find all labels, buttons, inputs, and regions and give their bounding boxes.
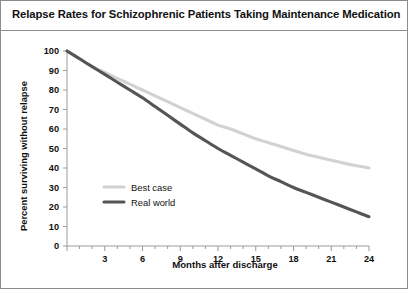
y-axis-ticks: 0102030405060708090100 [44, 46, 67, 251]
chart-figure: Relapse Rates for Schizophrenic Patients… [0, 0, 408, 289]
y-tick-label: 30 [49, 183, 59, 193]
legend: Best case Real world [104, 182, 175, 208]
y-tick-label: 10 [49, 222, 59, 232]
series-line-best-case [67, 51, 369, 168]
plot-area: 0102030405060708090100 3691215182124 Bes… [1, 31, 408, 289]
y-tick-label: 100 [44, 46, 59, 56]
y-tick-label: 40 [49, 163, 59, 173]
y-tick-label: 70 [49, 105, 59, 115]
x-axis-title: Months after discharge [1, 259, 408, 270]
legend-label-best-case: Best case [131, 182, 172, 193]
legend-label-real-world: Real world [131, 197, 175, 208]
y-tick-label: 80 [49, 85, 59, 95]
title-bar: Relapse Rates for Schizophrenic Patients… [1, 1, 407, 31]
y-tick-label: 0 [54, 241, 59, 251]
y-tick-label: 20 [49, 202, 59, 212]
page-title: Relapse Rates for Schizophrenic Patients… [12, 8, 400, 20]
y-tick-label: 50 [49, 144, 59, 154]
y-tick-label: 60 [49, 124, 59, 134]
y-tick-label: 90 [49, 66, 59, 76]
